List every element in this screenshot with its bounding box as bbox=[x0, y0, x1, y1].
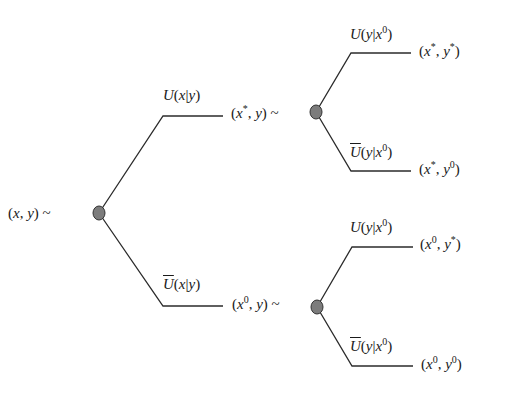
upper-chance-node bbox=[310, 105, 322, 119]
edge-lower-lower bbox=[317, 307, 413, 366]
edge-root-upper bbox=[99, 116, 223, 213]
root-label: (x, y) ~ bbox=[8, 206, 51, 221]
leaf-outcome-1: (x*, y*) bbox=[419, 44, 460, 59]
leaf-branch-label-1: U(y|x0) bbox=[350, 27, 392, 42]
decision-tree-diagram: (x, y) ~ U(x|y) U(x|y) (x*, y) ~ (x0, y)… bbox=[0, 0, 507, 397]
branch-label-lower: U(x|y) bbox=[163, 277, 200, 292]
tree-edges bbox=[0, 0, 507, 397]
leaf-branch-label-4: U(y|x0) bbox=[350, 339, 392, 354]
edge-upper-lower bbox=[316, 112, 411, 171]
leaf-outcome-3: (x0, y*) bbox=[420, 237, 461, 252]
edge-lower-upper bbox=[317, 247, 413, 307]
leaf-branch-label-3: U(y|x0) bbox=[350, 220, 392, 235]
edge-root-lower bbox=[99, 213, 223, 306]
root-node bbox=[93, 206, 105, 220]
branch-label-upper: U(x|y) bbox=[163, 88, 200, 103]
state-label-upper: (x*, y) ~ bbox=[231, 106, 279, 121]
leaf-outcome-2: (x*, y0) bbox=[419, 162, 460, 177]
leaf-outcome-4: (x0, y0) bbox=[421, 357, 462, 372]
lower-chance-node bbox=[311, 300, 323, 314]
edge-upper-upper bbox=[316, 53, 411, 112]
state-label-lower: (x0, y) ~ bbox=[232, 297, 280, 312]
leaf-branch-label-2: U(y|x0) bbox=[350, 145, 392, 160]
